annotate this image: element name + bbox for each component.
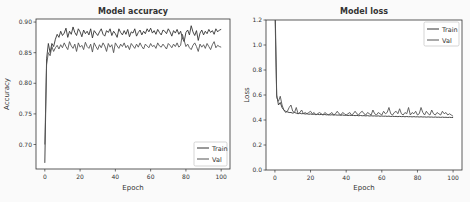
loss-chart: Model loss 0.00.20.40.60.81.01.2 0204060… [243,0,462,192]
x-tick-label: 40 [342,174,350,181]
x-tick-label: 60 [147,173,155,180]
y-axis-label: Loss [243,87,251,103]
y-tick-label: 0.85 [19,49,33,56]
x-tick-label: 20 [307,174,315,181]
x-tick-label: 80 [182,173,190,180]
legend-val-label: Val [442,37,452,45]
y-axis-ticks: 0.700.750.800.850.90 [19,18,36,147]
y-tick-label: 0.4 [252,116,262,123]
y-tick-label: 0.0 [252,166,262,173]
x-axis-ticks: 020406080100 [43,169,227,180]
legend-train-label: Train [211,145,228,153]
y-tick-label: 1.2 [252,16,262,23]
legend-val-label: Val [212,156,222,164]
y-tick-label: 0.6 [252,91,262,98]
x-axis-label: Epoch [122,184,143,192]
x-tick-label: 0 [43,173,47,180]
y-tick-label: 0.90 [19,18,33,25]
chart-figure: Model accuracy 0.700.750.800.850.90 0204… [0,0,470,202]
accuracy-chart: Model accuracy 0.700.750.800.850.90 0204… [3,7,230,192]
y-axis-ticks: 0.00.20.40.60.81.01.2 [252,16,266,173]
y-tick-label: 0.70 [19,141,33,148]
chart-title: Model loss [340,7,388,16]
legend-train-label: Train [441,26,458,34]
y-tick-label: 0.2 [252,141,262,148]
legend: Train Val [424,22,459,46]
x-tick-label: 20 [76,173,84,180]
x-tick-label: 80 [414,174,422,181]
x-axis-ticks: 020406080100 [273,170,459,181]
x-axis-label: Epoch [353,184,374,192]
x-tick-label: 100 [215,173,227,180]
y-axis-label: Accuracy [3,78,11,110]
figure: Model accuracy 0.700.750.800.850.90 0204… [0,0,470,202]
chart-title: Model accuracy [98,7,169,16]
y-tick-label: 1.0 [252,41,262,48]
y-tick-label: 0.8 [252,66,262,73]
y-tick-label: 0.80 [19,79,33,86]
x-tick-label: 100 [447,174,459,181]
x-tick-label: 40 [112,173,120,180]
x-tick-label: 60 [378,174,386,181]
x-tick-label: 0 [273,174,277,181]
legend: Train Val [194,142,228,166]
y-tick-label: 0.75 [19,110,33,117]
